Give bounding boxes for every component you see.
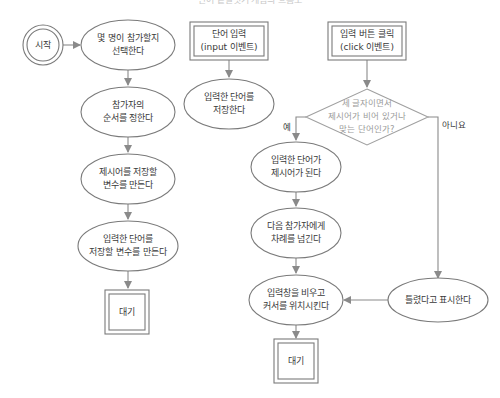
node-line: 입력한 단어를 — [204, 91, 255, 102]
decision-node: 세 글자이면서 제시어가 비어 있거나 맞는 단어인가? — [306, 89, 428, 145]
becomes-word-node: 입력한 단어가 제시어가 된다 — [251, 142, 341, 192]
make-word-var-node: 제시어를 저장할 변수를 만든다 — [81, 154, 175, 204]
node-line: 몇 명이 참가할지 — [97, 33, 159, 43]
node-line: 단어 입력 — [212, 28, 247, 39]
node-line: 선택한다 — [112, 46, 145, 56]
store-word-node: 입력한 단어를 저장한다 — [184, 79, 274, 129]
start-label: 시작 — [35, 40, 51, 50]
set-order-node: 참가자의 순서를 정한다 — [81, 87, 175, 137]
clear-input-node: 입력창을 비우고 커서를 위치시킨다 — [249, 275, 343, 325]
flowchart: 단어 끝말잇기 게임의 흐름도 예 아니요 시작 몇 명이 참가할지 선택한다 … — [0, 0, 500, 398]
node-line: 입력한 단어가 — [271, 154, 322, 165]
diagram-caption: 단어 끝말잇기 게임의 흐름도 — [198, 0, 303, 5]
no-label: 아니요 — [442, 120, 466, 130]
node-line: (click 이벤트) — [340, 42, 394, 52]
wait-right-node: 대기 — [274, 339, 318, 383]
input-event-node: 단어 입력 (input 이벤트) — [190, 22, 268, 60]
node-line: 참가자의 — [112, 100, 144, 110]
node-line: 틀렸다고 표시한다 — [405, 294, 473, 305]
node-line: 커서를 위치시킨다 — [263, 300, 331, 311]
wait-label: 대기 — [288, 356, 304, 366]
node-line: 다음 참가자에게 — [267, 221, 326, 231]
make-input-var-node: 입력한 단어를 저장할 변수를 만든다 — [78, 221, 178, 271]
node-line: 차례를 넘긴다 — [271, 233, 323, 244]
wait-left-node: 대기 — [105, 290, 149, 334]
node-line: 입력한 단어를 — [103, 233, 154, 244]
yes-label: 예 — [283, 122, 291, 132]
node-line: (input 이벤트) — [200, 42, 257, 52]
node-line: 순서를 정한다 — [103, 113, 155, 123]
choose-players-node: 몇 명이 참가할지 선택한다 — [81, 20, 175, 70]
start-node: 시작 — [23, 25, 63, 65]
node-line: 입력창을 비우고 — [267, 287, 326, 298]
next-turn-node: 다음 참가자에게 차례를 넘긴다 — [251, 208, 341, 258]
show-wrong-node: 틀렸다고 표시한다 — [388, 278, 488, 322]
node-line: 제시어를 저장할 — [99, 167, 158, 177]
node-line: 입력 버튼 클릭 — [340, 28, 394, 39]
click-event-node: 입력 버튼 클릭 (click 이벤트) — [328, 22, 406, 60]
node-line: 맞는 단어인가? — [339, 124, 394, 134]
node-line: 변수를 만든다 — [103, 180, 155, 190]
wait-label: 대기 — [119, 307, 135, 317]
node-line: 제시어가 된다 — [271, 167, 323, 178]
node-line: 저장한다 — [213, 105, 246, 115]
node-line: 제시어가 비어 있거나 — [328, 111, 405, 121]
edge-decision-yes — [296, 117, 306, 140]
node-line: 저장할 변수를 만든다 — [89, 247, 168, 257]
edge-decision-no — [428, 117, 438, 278]
node-line: 세 글자이면서 — [342, 98, 393, 108]
